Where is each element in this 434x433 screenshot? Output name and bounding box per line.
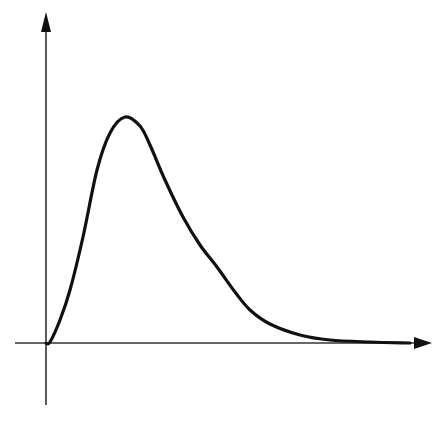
chart-canvas xyxy=(0,0,434,433)
y-axis-arrow-icon xyxy=(41,12,51,32)
x-axis-arrow-icon xyxy=(414,337,432,349)
distribution-curve xyxy=(46,117,410,344)
